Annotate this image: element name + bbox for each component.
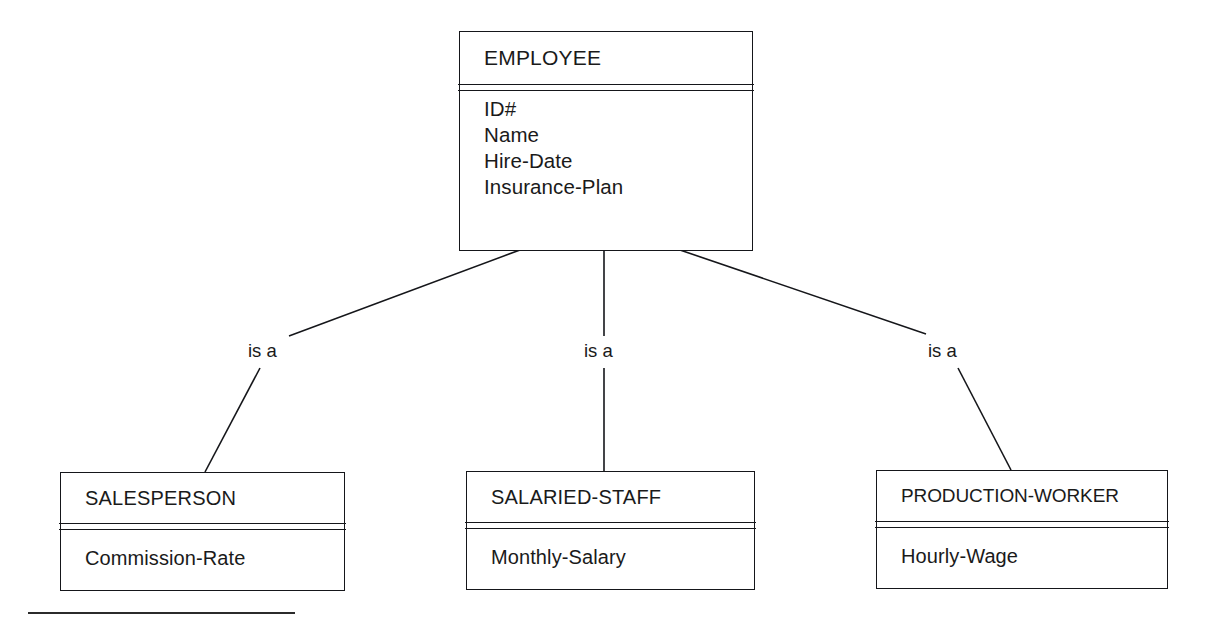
entity-salesperson-divider-bottom [59,529,345,530]
isa-label-salaried-staff: is a [584,342,613,361]
attribute-item: ID# [484,96,752,122]
attribute-item: Name [484,122,752,148]
entity-production-worker-divider-bottom [875,527,1168,528]
attribute-item: Insurance-Plan [484,174,752,200]
entity-production-worker-divider-top [875,521,1168,522]
entity-employee-divider-top [458,84,753,85]
attribute-item: Hire-Date [484,148,752,174]
isa-label-salesperson: is a [248,342,277,361]
entity-salaried-staff-title: SALARIED-STAFF [467,472,754,522]
connector-production-worker-lower [958,368,1011,470]
entity-production-worker-title: PRODUCTION-WORKER [877,471,1167,521]
attribute-item: Hourly-Wage [901,529,1167,569]
entity-production-worker-attributes: Hourly-Wage [877,529,1167,569]
connector-salesperson-upper [289,250,520,336]
entity-employee-attributes: ID# Name Hire-Date Insurance-Plan [460,96,752,200]
entity-salaried-staff[interactable]: SALARIED-STAFF Monthly-Salary [466,471,755,590]
entity-salaried-staff-divider-bottom [465,528,755,529]
entity-salesperson-attributes: Commission-Rate [61,531,344,571]
entity-salesperson-divider-top [59,523,345,524]
connector-salesperson-lower [205,368,260,472]
entity-employee-divider-bottom [458,90,753,91]
entity-salesperson[interactable]: SALESPERSON Commission-Rate [60,472,345,591]
entity-salaried-staff-divider-top [465,522,755,523]
connector-production-worker-upper [680,250,926,334]
footnote-separator-rule [28,612,295,614]
diagram-canvas: EMPLOYEE ID# Name Hire-Date Insurance-Pl… [0,0,1213,628]
entity-salesperson-title: SALESPERSON [61,473,344,523]
entity-salaried-staff-attributes: Monthly-Salary [467,530,754,570]
entity-production-worker[interactable]: PRODUCTION-WORKER Hourly-Wage [876,470,1168,589]
isa-label-production-worker: is a [928,342,957,361]
entity-employee[interactable]: EMPLOYEE ID# Name Hire-Date Insurance-Pl… [459,31,753,251]
attribute-item: Monthly-Salary [491,530,754,570]
attribute-item: Commission-Rate [85,531,344,571]
entity-employee-title: EMPLOYEE [460,32,752,84]
